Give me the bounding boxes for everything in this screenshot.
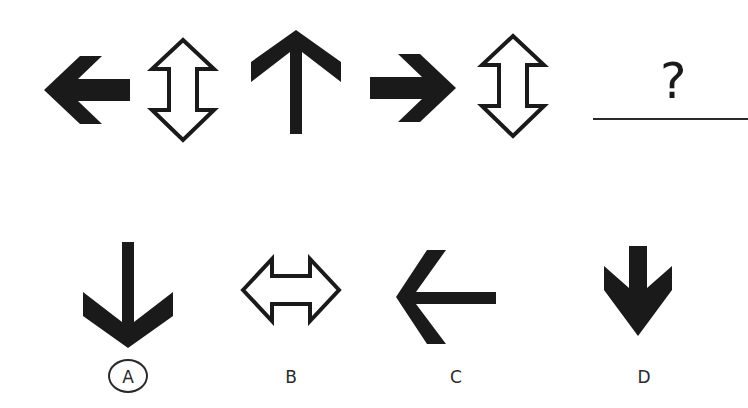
option-d-label[interactable]: D (624, 367, 664, 387)
option-d-solid-arrow-down-icon[interactable] (602, 244, 674, 338)
option-b-label[interactable]: B (271, 367, 311, 387)
option-c-thin-arrow-left-icon[interactable] (394, 248, 498, 346)
answer-blank-line (593, 118, 748, 120)
option-c-label[interactable]: C (436, 367, 476, 387)
double-arrow-vertical-icon (147, 37, 219, 143)
thin-arrow-up-icon (248, 30, 344, 136)
solid-arrow-right-icon (368, 50, 458, 126)
solid-arrow-left-icon (42, 52, 132, 128)
double-arrow-vertical-icon (477, 33, 549, 139)
option-b-double-arrow-horizontal-icon[interactable] (240, 254, 342, 326)
missing-mark: ? (660, 56, 687, 106)
option-a-thin-arrow-down-icon[interactable] (80, 240, 176, 350)
option-a-label[interactable]: A (108, 367, 148, 387)
